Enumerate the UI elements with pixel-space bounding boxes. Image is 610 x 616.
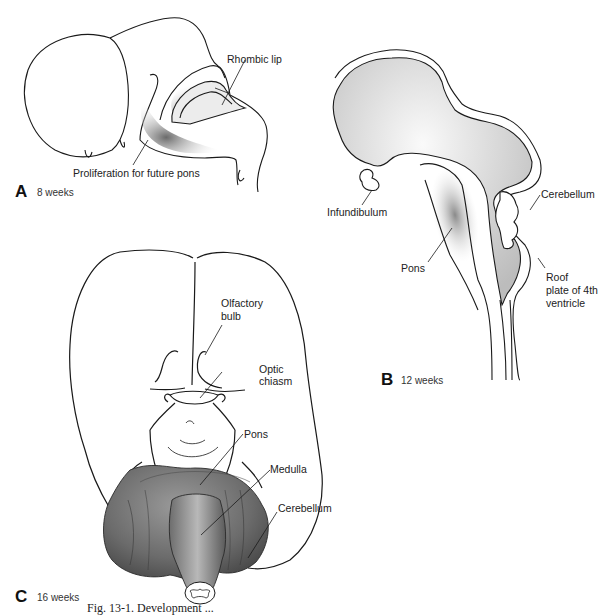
label-roof-plate-line2: plate of 4th [546, 284, 598, 296]
label-pons-c: Pons [244, 428, 268, 440]
panel-a-drawing [24, 18, 267, 192]
label-infundibulum: Infundibulum [327, 206, 387, 218]
optic-chiasm [170, 391, 218, 404]
midline-fissure [192, 262, 195, 385]
label-cerebellum-c: Cerebellum [278, 502, 332, 514]
label-roof-plate-line1: Roof [546, 271, 568, 283]
panel-a-age: 8 weeks [37, 187, 74, 198]
panel-c-drawing [70, 250, 323, 604]
label-olfactory-bulb-line1: Olfactory [221, 297, 263, 309]
label-cerebellum-b: Cerebellum [541, 188, 595, 200]
panel-c-letter: C [15, 587, 27, 607]
infundibulum-shape [360, 169, 379, 190]
olfactory-bulb-left [155, 351, 178, 382]
panel-b-letter: B [381, 370, 393, 390]
figure-caption: Fig. 13-1. Development ... [87, 601, 214, 616]
panel-a-letter: A [15, 182, 27, 202]
label-medulla-c: Medulla [270, 463, 307, 475]
label-pons-b: Pons [401, 262, 425, 274]
panel-c-age: 16 weeks [37, 592, 79, 603]
pons-shading-b [424, 163, 487, 266]
forebrain-vesicle [24, 35, 128, 157]
olfactory-bulb-right [197, 352, 222, 388]
label-roof-plate-line3: ventricle [546, 297, 585, 309]
label-optic-chiasm-line1: Optic [259, 363, 284, 375]
label-olfactory-bulb-line2: bulb [221, 310, 241, 322]
label-optic-chiasm-line2: chiasm [259, 375, 292, 387]
label-rhombic-lip: Rhombic lip [227, 53, 282, 65]
panel-b-age: 12 weeks [401, 375, 443, 386]
label-proliferation-future-pons: Proliferation for future pons [73, 167, 200, 179]
